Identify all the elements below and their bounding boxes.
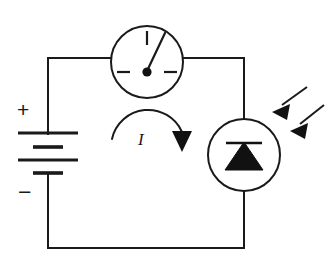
ammeter-symbol: [111, 26, 183, 98]
light-ray-1-arrowhead: [272, 104, 290, 120]
light-ray-2-shaft: [300, 105, 324, 124]
current-arc-arrowhead: [172, 131, 192, 152]
current-label: I: [138, 131, 144, 148]
ammeter-pivot-dot: [142, 67, 151, 76]
incident-light-rays: [272, 87, 324, 139]
light-ray-1: [272, 87, 307, 120]
current-direction-arrow: [112, 110, 192, 152]
circuit-diagram: + − I: [0, 0, 334, 268]
light-ray-2: [290, 105, 324, 139]
light-ray-2-arrowhead: [290, 123, 308, 139]
battery-negative-label: −: [18, 181, 31, 204]
battery-positive-label: +: [17, 99, 29, 120]
battery-symbol: [18, 133, 78, 173]
photodiode-symbol: [208, 119, 280, 191]
circuit-schematic-canvas: [0, 0, 334, 268]
light-ray-1-shaft: [282, 87, 307, 105]
current-arc-path: [112, 110, 182, 139]
